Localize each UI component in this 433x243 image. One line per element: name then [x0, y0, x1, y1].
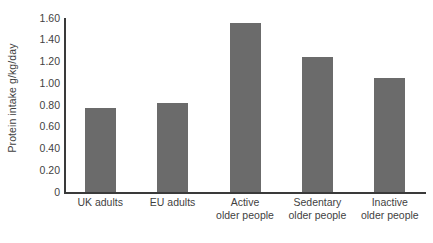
bar	[157, 103, 188, 192]
y-tick-label: 0.20	[20, 165, 60, 176]
bar	[85, 108, 116, 192]
y-tick-label: 1.00	[20, 78, 60, 89]
y-tick-label: 1.20	[20, 56, 60, 67]
y-tick-label: 0.80	[20, 100, 60, 111]
x-category-label-line: EU adults	[150, 196, 196, 208]
bar	[374, 78, 405, 192]
bar-chart: Protein intake g/kg/day 00.200.400.600.8…	[0, 0, 433, 243]
x-category-label-line: Inactive	[372, 196, 408, 208]
x-category-label-line: UK adults	[77, 196, 123, 208]
y-tick-label: 0.40	[20, 143, 60, 154]
y-tick-label: 0.60	[20, 121, 60, 132]
bars-layer	[64, 18, 426, 192]
bar	[302, 57, 333, 192]
x-category-label: Inactiveolder people	[347, 196, 433, 221]
x-category-label-line: older people	[347, 209, 433, 222]
bar	[230, 23, 261, 192]
y-axis-tick-labels: 00.200.400.600.801.001.201.401.60	[14, 0, 60, 243]
y-tick-label: 0	[20, 187, 60, 198]
x-category-label-line: Active	[231, 196, 260, 208]
x-category-label-line: Sedentary	[293, 196, 341, 208]
y-tick-label: 1.40	[20, 34, 60, 45]
y-tick-label: 1.60	[20, 13, 60, 24]
x-axis-line	[64, 192, 426, 194]
x-axis-category-labels: UK adultsEU adultsActiveolder peopleSede…	[64, 196, 426, 241]
